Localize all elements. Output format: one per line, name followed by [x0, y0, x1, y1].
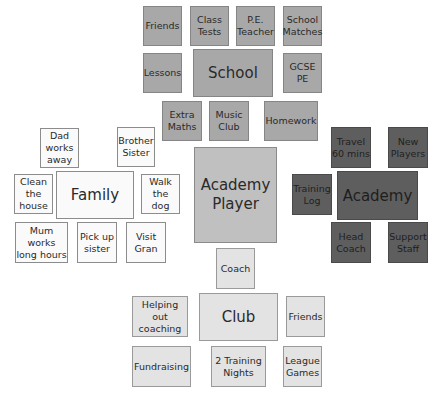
- school-matches-box: School Matches: [283, 6, 322, 46]
- school-homework-box: Homework: [264, 101, 318, 141]
- club-coach-box: Coach: [216, 248, 255, 289]
- school-pe-teacher-box: P.E. Teacher: [236, 6, 275, 46]
- club-league-games-box: League Games: [283, 346, 322, 387]
- family-brother-sister-box: Brother Sister: [117, 127, 155, 167]
- academy-player-center: Academy Player: [194, 147, 277, 243]
- school-friends-box: Friends: [143, 6, 182, 46]
- family-walk-dog-box: Walk the dog: [141, 174, 180, 214]
- family-pick-up-sister-box: Pick up sister: [77, 222, 117, 263]
- family-dad-works-away-box: Dad works away: [40, 128, 79, 168]
- school-lessons-box: Lessons: [143, 53, 182, 93]
- family-mum-works-box: Mum works long hours: [15, 222, 68, 263]
- academy-new-players-box: New Players: [388, 127, 428, 168]
- school-hub: School: [193, 49, 273, 97]
- academy-hub: Academy: [337, 171, 418, 220]
- family-hub: Family: [56, 171, 134, 219]
- school-music-club-box: Music Club: [209, 101, 249, 141]
- family-visit-gran-box: Visit Gran: [126, 222, 166, 263]
- school-class-tests-box: Class Tests: [190, 6, 229, 46]
- academy-training-log-box: Training Log: [292, 174, 332, 215]
- club-fundraising-box: Fundraising: [132, 346, 191, 387]
- academy-support-staff-box: Support Staff: [388, 222, 428, 263]
- school-extra-maths-box: Extra Maths: [162, 101, 202, 141]
- club-helping-coaching-box: Helping out coaching: [132, 296, 188, 337]
- club-friends-box: Friends: [286, 296, 325, 337]
- club-training-nights-box: 2 Training Nights: [211, 346, 266, 387]
- academy-head-coach-box: Head Coach: [331, 222, 371, 263]
- family-clean-house-box: Clean the house: [14, 174, 53, 214]
- academy-travel-box: Travel 60 mins: [331, 127, 371, 168]
- school-gcse-pe-box: GCSE PE: [283, 53, 322, 93]
- club-hub: Club: [199, 293, 278, 341]
